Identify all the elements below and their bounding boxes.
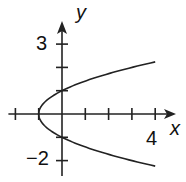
graph: y x 3 −2 4 bbox=[0, 0, 186, 182]
x-axis-label: x bbox=[170, 118, 180, 138]
y-tick-label-neg2: −2 bbox=[26, 148, 49, 168]
x-tick-label-4: 4 bbox=[146, 128, 157, 148]
y-tick-label-3: 3 bbox=[36, 33, 47, 53]
y-axis-label: y bbox=[76, 2, 86, 22]
